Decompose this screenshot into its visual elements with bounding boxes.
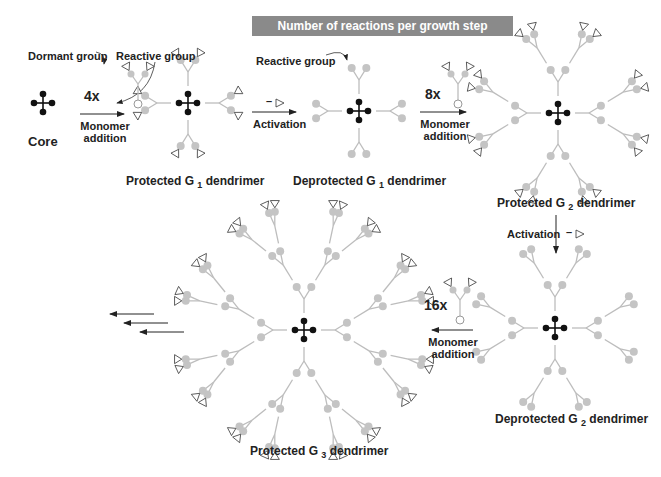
protecting-group-icon: [425, 365, 433, 373]
monomer-node: [583, 398, 591, 406]
label-text: dendrimer: [586, 412, 648, 426]
monomer-addition-text: addition: [80, 132, 130, 144]
core-node: [552, 316, 559, 323]
monomer-node: [527, 403, 535, 411]
monomer-node: [362, 150, 370, 158]
core-node: [561, 325, 568, 332]
monomer-node: [530, 188, 538, 196]
monomer-addition-text: Monomer: [428, 336, 478, 348]
protecting-group-icon: [372, 224, 380, 232]
monomer-node: [268, 252, 276, 260]
monomer-node: [417, 361, 425, 369]
protecting-group-icon: [527, 22, 536, 30]
core-node: [347, 108, 354, 115]
monomer-node: [508, 317, 516, 325]
monomer-addition-text: Monomer: [80, 120, 130, 132]
ab2-monomer-16x: [444, 278, 477, 324]
core-node: [301, 318, 308, 325]
core-node: [185, 91, 192, 98]
protecting-group-icon: [634, 148, 642, 156]
monomer-node: [397, 391, 405, 399]
monomer-node: [519, 250, 527, 258]
protected-g3-structure: [175, 201, 434, 460]
protected-g3-label: Protected G 3 dendrimer: [250, 444, 388, 460]
monomer-node: [575, 245, 583, 253]
core-node: [176, 100, 183, 107]
monomer-node: [530, 30, 538, 38]
monomer-node: [374, 358, 382, 366]
monomer-node: [141, 106, 149, 114]
protecting-group-icon: [580, 22, 589, 30]
protecting-group-icon: [634, 70, 642, 78]
diagram-artwork: [0, 0, 661, 477]
protecting-group-icon: [329, 201, 338, 208]
monomer-node: [625, 292, 633, 300]
monomer-node: [547, 152, 555, 160]
protecting-group-icon: [270, 201, 279, 208]
label-text: dendrimer: [326, 444, 388, 458]
monomer-node: [594, 331, 602, 339]
protecting-group-icon: [233, 217, 241, 225]
deprotected-g1-label: Deprotected G 1 dendrimer: [293, 174, 446, 190]
protecting-group-icon: [175, 296, 182, 305]
protecting-group-icon: [227, 224, 235, 232]
monomer-node: [558, 281, 566, 289]
label-text: Protected G: [126, 174, 197, 188]
core-node: [356, 99, 363, 106]
protecting-group-icon: [175, 365, 183, 373]
monomer-node: [597, 116, 605, 124]
monomer-node: [332, 400, 340, 408]
protecting-group-icon: [198, 253, 206, 261]
protecting-group-icon: [466, 62, 474, 70]
protecting-group-icon: [133, 112, 141, 120]
core-node: [555, 101, 562, 108]
monomer-node: [625, 356, 633, 364]
monomer-node: [307, 369, 315, 377]
monomer-node: [226, 358, 234, 366]
monomer-node: [362, 64, 370, 72]
protected-g1-label: Protected G 1 dendrimer: [126, 174, 264, 190]
monomer-node: [312, 114, 320, 122]
activation-label-2: Activation: [507, 228, 560, 240]
deprotected-g2-label: Deprotected G 2 dendrimer: [495, 412, 648, 428]
core-node: [49, 100, 56, 107]
protecting-group-icon: [191, 393, 199, 401]
core-structure: [31, 91, 56, 116]
monomer-node: [332, 252, 340, 260]
monomer-node: [475, 133, 483, 141]
core-node: [292, 327, 299, 334]
core-node: [310, 327, 317, 334]
monomer-node: [508, 331, 516, 339]
protected-g2-structure: [467, 22, 648, 203]
monomer-node: [561, 66, 569, 74]
protecting-group-icon: [198, 398, 206, 406]
deprotected-g2-structure: [472, 245, 638, 411]
monomer-addition-label-1: Monomer addition: [80, 120, 130, 144]
protecting-group-icon: [175, 355, 182, 364]
multiplier-8x: 8x: [425, 86, 441, 102]
monomer-node: [268, 400, 276, 408]
protecting-group-icon: [197, 149, 205, 157]
monomer-addition-text: Monomer: [420, 118, 470, 130]
deprotected-g1-structure: [312, 64, 406, 158]
monomer-node: [221, 302, 229, 310]
core-node: [31, 100, 38, 107]
protecting-group-icon: [197, 48, 205, 56]
monomer-node: [630, 348, 638, 356]
monomer-addition-label-2: Monomer addition: [420, 118, 470, 142]
monomer-node: [561, 152, 569, 160]
dormant-group-label: Dormant group: [28, 50, 107, 62]
core-node: [185, 109, 192, 116]
monomer-node: [379, 302, 387, 310]
core-node: [194, 100, 201, 107]
monomer-node: [221, 350, 229, 358]
monomer-node: [271, 208, 279, 216]
protecting-group-icon: [233, 434, 241, 442]
monomer-node: [257, 333, 265, 341]
monomer-node: [235, 423, 243, 431]
protecting-group-icon: [367, 217, 375, 225]
monomer-node: [227, 92, 235, 100]
protecting-group-icon: [474, 70, 482, 78]
monomer-node: [583, 250, 591, 258]
protecting-group-icon: [260, 201, 268, 209]
